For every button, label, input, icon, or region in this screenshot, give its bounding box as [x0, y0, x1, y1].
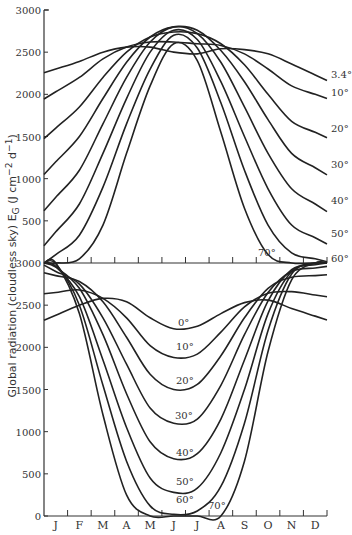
svg-text:3.4°: 3.4° — [331, 69, 352, 80]
svg-text:60°: 60° — [176, 494, 194, 505]
svg-text:50°: 50° — [331, 228, 349, 239]
svg-text:1000: 1000 — [16, 174, 41, 185]
curves — [44, 26, 327, 520]
svg-text:60°: 60° — [331, 253, 349, 264]
svg-text:S: S — [241, 519, 249, 532]
svg-text:2500: 2500 — [16, 47, 41, 58]
svg-text:0°: 0° — [178, 317, 189, 328]
svg-text:20°: 20° — [176, 375, 194, 386]
svg-text:2500: 2500 — [16, 300, 41, 311]
svg-text:1500: 1500 — [16, 132, 41, 143]
radiation-chart: 3000250020001500100050030002500200015001… — [0, 0, 352, 535]
svg-text:500: 500 — [22, 216, 41, 227]
svg-text:500: 500 — [22, 469, 41, 480]
svg-text:20°: 20° — [331, 123, 349, 134]
curve-labels: 3.4°10°20°30°40°50°60°70°0°10°20°30°40°5… — [175, 69, 352, 511]
svg-text:N: N — [287, 519, 297, 532]
svg-text:70°: 70° — [208, 500, 226, 511]
svg-text:A: A — [122, 519, 132, 532]
svg-text:1000: 1000 — [16, 427, 41, 438]
svg-text:40°: 40° — [176, 447, 194, 458]
svg-text:10°: 10° — [176, 341, 194, 352]
svg-text:2000: 2000 — [16, 342, 41, 353]
svg-text:F: F — [76, 519, 84, 532]
axes: 3000250020001500100050030002500200015001… — [16, 5, 327, 532]
svg-text:J: J — [194, 519, 199, 532]
svg-text:0: 0 — [35, 511, 41, 522]
svg-text:30°: 30° — [175, 410, 193, 421]
svg-text:M: M — [97, 519, 108, 532]
svg-text:3000: 3000 — [16, 5, 41, 16]
svg-text:50°: 50° — [176, 476, 194, 487]
svg-text:40°: 40° — [331, 195, 349, 206]
svg-text:A: A — [216, 519, 226, 532]
svg-text:1500: 1500 — [16, 385, 41, 396]
svg-text:3000: 3000 — [16, 258, 41, 269]
svg-text:10°: 10° — [331, 87, 349, 98]
svg-text:M: M — [144, 519, 155, 532]
svg-text:2000: 2000 — [16, 89, 41, 100]
svg-text:J: J — [170, 519, 175, 532]
svg-text:30°: 30° — [331, 159, 349, 170]
svg-text:O: O — [264, 519, 273, 532]
svg-text:J: J — [53, 519, 58, 532]
svg-text:70°: 70° — [258, 247, 276, 258]
svg-text:D: D — [311, 519, 320, 532]
